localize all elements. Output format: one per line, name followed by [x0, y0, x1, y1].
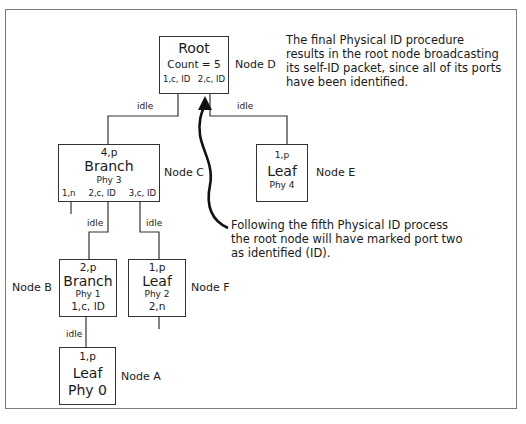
note-bottom-line: Following the fifth Physical ID process — [231, 218, 463, 232]
node-a: 1,p Leaf Phy 0 — [59, 347, 116, 405]
note-bottom: Following the fifth Physical ID process … — [231, 218, 463, 260]
note-top-line: have been identified. — [286, 75, 501, 89]
node-b-port-bottom: 1,c, ID — [60, 301, 116, 313]
node-c-title: Branch — [59, 159, 159, 174]
node-e: 1,p Leaf Phy 4 — [256, 144, 308, 202]
note-top: The final Physical ID procedure results … — [286, 33, 501, 89]
node-c-port1: 1,n — [62, 188, 76, 198]
link-c-b — [89, 202, 108, 259]
note-bottom-line: the root node will have marked port two — [231, 232, 463, 246]
node-b-label: Node B — [12, 281, 52, 294]
node-b-port-top: 2,p — [60, 262, 116, 274]
node-f-phy: Phy 2 — [129, 290, 185, 300]
node-d-label: Node D — [235, 58, 276, 71]
link-label-c-b: idle — [87, 218, 103, 228]
node-f: 1,p Leaf Phy 2 2,n — [128, 259, 186, 317]
node-root-port1: 1,c, ID — [163, 74, 190, 84]
node-c-phy: Phy 3 — [59, 176, 159, 186]
node-e-port-top: 1,p — [257, 151, 307, 161]
node-c: 4,p Branch Phy 3 1,n 2,c, ID 3,c, ID — [58, 144, 160, 202]
node-f-port-top: 1,p — [129, 262, 185, 274]
node-root-port2: 2,c, ID — [198, 74, 225, 84]
node-a-phy: Phy 0 — [60, 383, 115, 398]
node-b-phy: Phy 1 — [60, 290, 116, 300]
node-f-label: Node F — [191, 281, 230, 294]
node-root: Root Count = 5 1,c, ID 2,c, ID — [159, 36, 229, 94]
node-e-phy: Phy 4 — [257, 181, 307, 191]
node-e-title: Leaf — [257, 164, 307, 179]
node-a-port-top: 1,p — [60, 351, 115, 363]
link-label-c-f: idle — [146, 218, 162, 228]
node-c-port-top: 4,p — [59, 147, 159, 159]
node-f-port-bottom: 2,n — [129, 301, 185, 313]
link-label-root-e: idle — [237, 101, 253, 111]
node-b: 2,p Branch Phy 1 1,c, ID — [59, 259, 117, 317]
node-c-port2: 2,c, ID — [89, 188, 116, 198]
link-label-b-a: idle — [66, 329, 82, 339]
node-c-label: Node C — [164, 166, 204, 179]
node-a-title: Leaf — [60, 366, 115, 381]
node-e-label: Node E — [316, 166, 355, 179]
node-b-title: Branch — [60, 274, 116, 289]
link-c-f — [140, 202, 159, 259]
note-top-line: its self-ID packet, since all of its por… — [286, 61, 501, 75]
node-root-count: Count = 5 — [160, 59, 228, 71]
node-root-title: Root — [160, 41, 228, 56]
note-top-line: The final Physical ID procedure — [286, 33, 501, 47]
link-label-root-c: idle — [137, 101, 153, 111]
node-a-label: Node A — [121, 370, 161, 383]
note-bottom-line: as identified (ID). — [231, 246, 463, 260]
node-f-title: Leaf — [129, 274, 185, 289]
note-top-line: results in the root node broadcasting — [286, 47, 501, 61]
node-c-port3: 3,c, ID — [129, 188, 156, 198]
